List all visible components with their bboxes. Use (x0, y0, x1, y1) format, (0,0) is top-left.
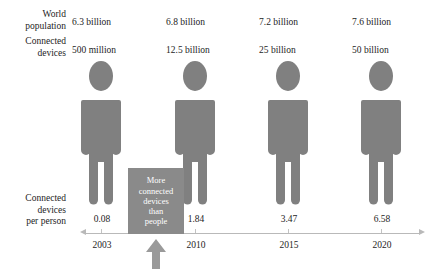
devices-per-person-value-2020: 6.58 (358, 213, 406, 225)
axis-tick-2010 (195, 229, 196, 233)
axis-year-label-2010: 2010 (172, 240, 220, 250)
devices-per-person-value-2015: 3.47 (265, 213, 313, 225)
connected-devices-value-2010: 12.5 billion (166, 44, 210, 56)
axis-arrow-right-icon (419, 229, 425, 235)
world-population-value-2015: 7.2 billion (259, 16, 298, 28)
connected-devices-value-2020: 50 billion (352, 44, 389, 56)
world-population-value-2010: 6.8 billion (166, 16, 205, 28)
person-icon (264, 60, 312, 208)
crossover-point-arrow-icon (145, 239, 167, 269)
axis-arrow-left-icon (80, 229, 86, 235)
callout-more-devices-than-people: More connected devices than people (128, 168, 184, 234)
person-pictogram-2020 (357, 60, 405, 208)
person-icon (357, 60, 405, 208)
world-population-value-2020: 7.6 billion (352, 16, 391, 28)
axis-tick-2015 (288, 229, 289, 233)
person-pictogram-2015 (264, 60, 312, 208)
axis-tick-2020 (381, 229, 382, 233)
axis-year-label-2020: 2020 (358, 240, 406, 250)
axis-tick-2003 (101, 229, 102, 233)
person-pictogram-2003 (77, 60, 125, 208)
row-label-connected-devices: Connected devices (0, 36, 66, 59)
axis-year-label-2003: 2003 (78, 240, 126, 250)
row-label-world-population: World population (0, 9, 66, 32)
devices-per-person-value-2003: 0.08 (78, 213, 126, 225)
connected-devices-value-2003: 500 million (72, 44, 116, 56)
world-population-value-2003: 6.3 billion (72, 16, 111, 28)
row-label-connected-devices-per-person: Connected devices per person (0, 193, 66, 228)
iot-growth-infographic: World population Connected devices Conne… (0, 0, 432, 275)
connected-devices-value-2015: 25 billion (259, 44, 296, 56)
person-icon (77, 60, 125, 208)
axis-year-label-2015: 2015 (265, 240, 313, 250)
